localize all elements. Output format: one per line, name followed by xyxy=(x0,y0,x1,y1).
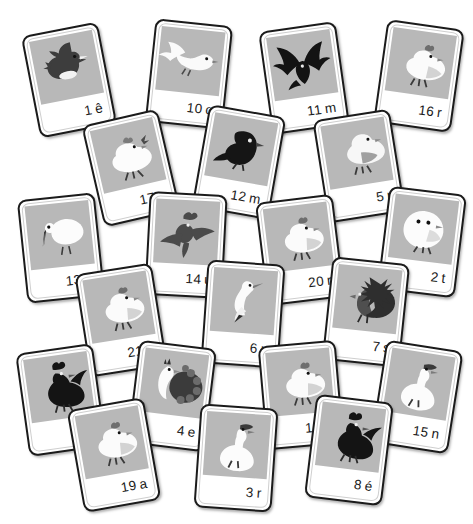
chick-icon xyxy=(388,193,459,264)
card-number: 8 xyxy=(353,477,363,493)
card-letter: t xyxy=(441,271,447,286)
card-letter: n xyxy=(430,426,440,442)
card-number: 12 xyxy=(229,187,247,205)
card-letter: r xyxy=(436,105,443,121)
card-number: 3 xyxy=(245,485,254,501)
card-number: 10 xyxy=(186,100,203,117)
card-number: 7 xyxy=(372,339,381,355)
card-number: 20 xyxy=(307,273,325,290)
hen-icon xyxy=(263,201,334,272)
card-number: 5 xyxy=(375,189,385,205)
card-number: 4 xyxy=(176,423,186,439)
heron-icon xyxy=(210,267,278,335)
card-number: 2 xyxy=(430,269,440,285)
rooster-icon xyxy=(315,401,386,472)
card-number: 6 xyxy=(249,341,258,357)
turkey-icon xyxy=(332,264,402,334)
card-letter: r xyxy=(256,486,262,501)
flying-bird-icon xyxy=(153,198,220,265)
goose-icon xyxy=(382,348,455,421)
hen-icon xyxy=(385,27,457,99)
card-caption: 3r xyxy=(201,475,267,508)
dove-icon xyxy=(155,26,225,96)
card-number: 16 xyxy=(418,102,436,119)
hen-icon xyxy=(75,405,149,479)
card-letter: é xyxy=(364,478,374,494)
flashcard-board: 1ê10o11m16r17e12m5r13e14u20r2t21d6u7s9c4… xyxy=(0,0,473,524)
peacock-icon xyxy=(138,347,209,418)
card-number: 19 xyxy=(120,478,138,496)
goose-icon xyxy=(203,411,271,479)
flashcard-3-r[interactable]: 3r xyxy=(193,403,278,512)
card-letter: e xyxy=(187,424,197,440)
card-number: 1 xyxy=(83,102,94,118)
card-letter: ê xyxy=(94,100,105,116)
pigeon-icon xyxy=(320,117,393,190)
spread-wing-bird-icon xyxy=(266,29,338,101)
hen-icon xyxy=(82,271,155,344)
flashcard-8-é[interactable]: 8é xyxy=(304,394,394,507)
card-number: 14 xyxy=(185,271,202,287)
card-letter: a xyxy=(138,476,148,492)
duck-icon xyxy=(29,30,104,105)
card-letter: m xyxy=(324,100,338,116)
card-number: 15 xyxy=(412,423,430,440)
blackbird-icon xyxy=(204,112,278,186)
card-number: 11 xyxy=(306,102,323,119)
stork-icon xyxy=(24,200,94,270)
